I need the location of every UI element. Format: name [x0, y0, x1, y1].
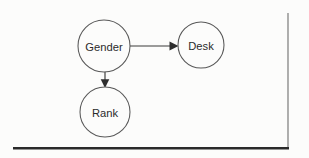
- node-desk[interactable]: Desk: [178, 22, 224, 68]
- node-desk-label: Desk: [188, 40, 214, 52]
- edge-gender-to-rank: [101, 71, 110, 88]
- node-rank-label: Rank: [92, 107, 119, 119]
- node-rank[interactable]: Rank: [80, 87, 130, 137]
- node-gender-label: Gender: [85, 41, 123, 53]
- diagram-svg: Gender Desk Rank: [0, 0, 309, 158]
- figure-canvas: Gender Desk Rank: [0, 0, 309, 158]
- edge-gender-to-desk-arrowhead: [170, 42, 179, 51]
- edge-gender-to-desk: [130, 42, 179, 51]
- node-gender[interactable]: Gender: [78, 20, 130, 72]
